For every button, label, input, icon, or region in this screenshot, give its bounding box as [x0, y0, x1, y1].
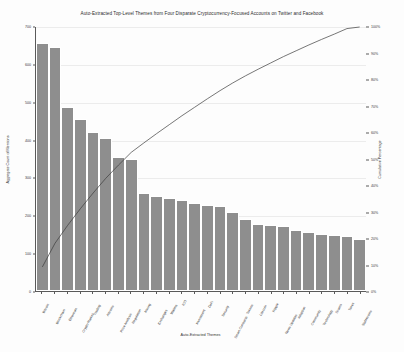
bar-slot [302, 27, 315, 291]
y2-tick-mark [366, 80, 369, 81]
x-tick-label: Price Analysis [119, 313, 132, 334]
bar-slot [61, 27, 74, 291]
bar[interactable] [99, 138, 112, 291]
y-axis-left-title: Aggregate Count of Mentions [6, 27, 18, 292]
y-tick-label: 0 [29, 290, 31, 294]
bar[interactable] [252, 224, 265, 291]
y2-tick-mark [366, 265, 369, 266]
x-tick-mark [321, 292, 322, 294]
x-tick-mark [118, 292, 119, 294]
x-tick-mark [347, 292, 348, 294]
bar-slot [163, 27, 176, 291]
y2-tick-mark [366, 239, 369, 240]
bar-slot [214, 27, 227, 291]
x-tick-mark [143, 292, 144, 294]
bar-slot [74, 27, 87, 291]
x-tick-label: Crypto Market [81, 313, 95, 334]
x-tick-mark [271, 292, 272, 294]
y-tick-label: 400 [25, 139, 31, 143]
bar[interactable] [201, 205, 214, 291]
x-tick-label: Investment [195, 309, 206, 326]
bar-slot [290, 27, 303, 291]
x-tick-mark [360, 292, 361, 294]
bar[interactable] [264, 225, 277, 291]
bar[interactable] [49, 47, 62, 291]
y-tick-label: 700 [25, 25, 31, 29]
x-tick-label: Community [310, 309, 322, 326]
x-tick-label: Exchanges [157, 309, 168, 326]
x-tick-mark [156, 292, 157, 294]
x-tick-mark [334, 292, 335, 294]
x-tick-mark [169, 292, 170, 294]
x-tick-label: Wallets [169, 304, 178, 316]
bar[interactable] [328, 235, 341, 291]
x-tick-label: DeFi [207, 300, 214, 308]
bar[interactable] [112, 157, 125, 291]
bar[interactable] [87, 132, 100, 291]
bar-slot [36, 27, 49, 291]
bar[interactable] [74, 119, 87, 291]
bar[interactable] [290, 230, 303, 291]
bar[interactable] [125, 159, 138, 292]
x-tick-mark [232, 292, 233, 294]
y2-tick-mark [366, 292, 369, 293]
y2-tick-mark [366, 27, 369, 28]
bar[interactable] [239, 219, 252, 291]
y2-tick-mark [366, 159, 369, 160]
y2-tick-label: 0% [371, 290, 376, 294]
bar[interactable] [188, 203, 201, 291]
pareto-chart-figure: Auto-Extracted Top-Level Themes from Fou… [0, 0, 404, 352]
bar-slot [87, 27, 100, 291]
x-tick-mark [80, 292, 81, 294]
x-tick-mark [309, 292, 310, 294]
x-tick-mark [181, 292, 182, 294]
x-tick-mark [258, 292, 259, 294]
x-tick-label: Adoption [297, 306, 307, 320]
bar-series [36, 27, 366, 291]
bar[interactable] [226, 212, 239, 292]
bar[interactable] [214, 206, 227, 291]
x-tick-mark [54, 292, 55, 294]
x-tick-mark [67, 292, 68, 294]
bar[interactable] [277, 226, 290, 291]
bar[interactable] [353, 239, 366, 291]
plot-area [35, 27, 366, 292]
bar-slot [150, 27, 163, 291]
bar-slot [353, 27, 366, 291]
plot-inner [36, 27, 366, 291]
bar-slot [277, 27, 290, 291]
x-tick-mark [283, 292, 284, 294]
bar-slot [125, 27, 138, 291]
x-tick-mark [207, 292, 208, 294]
bar-slot [49, 27, 62, 291]
bar[interactable] [163, 198, 176, 291]
bar[interactable] [302, 232, 315, 291]
x-axis-labels: BitcoinBlockchainEthereumCrypto MarketTr… [35, 292, 366, 334]
bar[interactable] [150, 196, 163, 291]
bar-slot [176, 27, 189, 291]
y2-tick-mark [366, 53, 369, 54]
bar[interactable] [315, 234, 328, 291]
bar-slot [328, 27, 341, 291]
x-tick-label: Mining [144, 303, 152, 314]
y-tick-label: 500 [25, 101, 31, 105]
x-tick-label: Security [220, 305, 229, 318]
x-tick-label: Trading [93, 304, 102, 316]
bar[interactable] [36, 43, 49, 291]
y2-tick-mark [366, 212, 369, 213]
bar[interactable] [61, 107, 74, 291]
bar-slot [252, 27, 265, 291]
bar[interactable] [138, 193, 151, 291]
x-tick-label: Stablecoins [361, 309, 373, 326]
x-tick-label: Technology [322, 309, 334, 326]
x-axis-title: Auto-Extracted Themes [35, 333, 366, 337]
x-tick-mark [92, 292, 93, 294]
bar[interactable] [176, 200, 189, 291]
y2-tick-mark [366, 133, 369, 134]
bar[interactable] [341, 236, 354, 291]
bar-slot [264, 27, 277, 291]
x-tick-label: ICO [182, 299, 188, 306]
x-tick-label: Ripple [271, 302, 279, 312]
x-tick-label: Litecoin [258, 304, 267, 316]
x-tick-label: Blockchain [55, 308, 66, 324]
